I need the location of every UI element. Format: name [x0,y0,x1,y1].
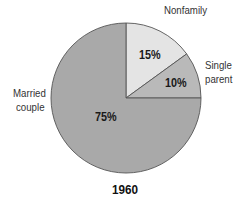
label-single-parent-line1: Single [205,59,232,71]
label-nonfamily: Nonfamily [164,4,207,16]
value-nonfamily: 15% [139,48,161,62]
value-single-parent: 10% [165,76,187,90]
chart-title: 1960 [112,182,138,197]
value-married-couple: 75% [95,110,117,124]
label-married-couple-line2: couple [16,101,45,113]
label-single-parent-line2: parent [205,73,232,85]
label-married-couple-line1: Married [13,87,46,99]
